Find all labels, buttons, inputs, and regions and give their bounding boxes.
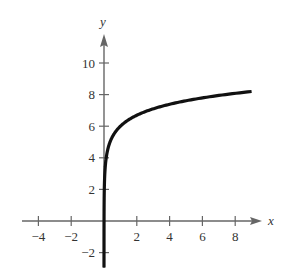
ticks: −4−22468−2246810 xyxy=(31,56,238,261)
y-tick-label: −2 xyxy=(81,245,95,260)
x-tick-label: 2 xyxy=(134,229,141,244)
x-tick-label: 8 xyxy=(232,229,239,244)
axes xyxy=(22,34,262,268)
y-tick-label: 6 xyxy=(89,119,96,134)
x-tick-label: −4 xyxy=(31,229,45,244)
y-tick-label: 4 xyxy=(89,150,96,165)
x-tick-label: 4 xyxy=(166,229,173,244)
chart-plot: −4−22468−2246810 x y xyxy=(0,0,284,277)
y-tick-label: 2 xyxy=(89,182,96,197)
x-tick-label: −2 xyxy=(64,229,78,244)
y-axis-label: y xyxy=(98,14,106,29)
y-tick-label: 8 xyxy=(89,87,96,102)
y-tick-label: 10 xyxy=(82,56,95,71)
x-axis-label: x xyxy=(267,213,274,228)
function-curve xyxy=(104,91,252,267)
x-tick-label: 6 xyxy=(199,229,206,244)
